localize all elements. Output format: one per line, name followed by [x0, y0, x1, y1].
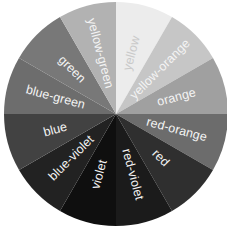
wheel-segments: [4, 2, 227, 226]
color-wheel: yellowyellow-orangeorangered-orangeredre…: [0, 0, 227, 231]
